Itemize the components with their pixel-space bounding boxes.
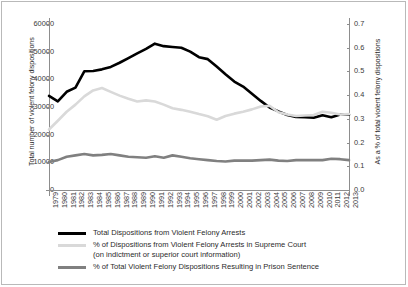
x-axis-tick-label: 1994 bbox=[184, 192, 191, 208]
x-axis-tick-label: 2010 bbox=[326, 192, 333, 208]
x-axis-tick-label: 1986 bbox=[114, 192, 121, 208]
y-right-tick-label: 0.3 bbox=[354, 115, 394, 122]
x-axis-tick-label: 2008 bbox=[308, 192, 315, 208]
legend-item: % of Total Violent Felony Dispositions R… bbox=[58, 262, 388, 273]
legend-label-sub: (on indictment or superior court informa… bbox=[93, 250, 306, 261]
x-axis-tick-label: 2003 bbox=[264, 192, 271, 208]
series-plot bbox=[49, 24, 349, 190]
legend-label: % of Total Violent Felony Dispositions R… bbox=[93, 262, 319, 273]
x-axis-tick-label: 2005 bbox=[281, 192, 288, 208]
legend-item: % of Dispositions from Violent Felony Ar… bbox=[58, 240, 388, 261]
chart-legend: Total Dispositions from Violent Felony A… bbox=[58, 228, 388, 273]
x-axis-tick-label: 1984 bbox=[96, 192, 103, 208]
x-axis-tick-label: 1982 bbox=[78, 192, 85, 208]
x-axis-tick-label: 1997 bbox=[211, 192, 218, 208]
x-axis-tick-label: 1996 bbox=[202, 192, 209, 208]
x-axis-tick-label: 2001 bbox=[246, 192, 253, 208]
y-right-tick-label: 0.4 bbox=[354, 91, 394, 98]
x-axis-tick-label: 1995 bbox=[193, 192, 200, 208]
series-line-3 bbox=[49, 154, 349, 162]
plot-area bbox=[49, 24, 349, 190]
x-axis-tick-label: 1987 bbox=[123, 192, 130, 208]
x-axis-tick-label: 1985 bbox=[105, 192, 112, 208]
x-axis-tick-label: 2007 bbox=[299, 192, 306, 208]
x-axis-tick-label: 1979 bbox=[52, 192, 59, 208]
y-right-tick-label: 0.7 bbox=[354, 20, 394, 27]
x-axis-tick-label: 1980 bbox=[61, 192, 68, 208]
x-axis-tick-label: 2006 bbox=[290, 192, 297, 208]
x-axis-tick-label: 1990 bbox=[149, 192, 156, 208]
y-right-tick-label: 0.5 bbox=[354, 67, 394, 74]
series-line-2 bbox=[49, 88, 349, 130]
y-right-tick-label: 0.2 bbox=[354, 139, 394, 146]
legend-label: Total Dispositions from Violent Felony A… bbox=[93, 228, 245, 239]
x-axis-tick-label: 1983 bbox=[87, 192, 94, 208]
legend-item: Total Dispositions from Violent Felony A… bbox=[58, 228, 388, 239]
chart-container: Total number of violent felony dispositi… bbox=[1, 1, 406, 285]
x-axis-tick-label: 2004 bbox=[273, 192, 280, 208]
x-axis-tick-label: 1998 bbox=[220, 192, 227, 208]
x-axis-tick-label: 2011 bbox=[334, 192, 341, 207]
x-axis-tick-label: 2009 bbox=[317, 192, 324, 208]
y-right-tick-label: 0.0 bbox=[354, 186, 394, 193]
x-axis-tick-label: 1989 bbox=[140, 192, 147, 208]
y-right-tick-label: 0.6 bbox=[354, 44, 394, 51]
legend-swatch-icon bbox=[58, 232, 86, 235]
axis-line-right bbox=[349, 18, 350, 196]
x-axis-labels: 1979198019811982198319841985198619871988… bbox=[49, 192, 349, 222]
x-axis-tick-label: 1981 bbox=[70, 192, 77, 208]
x-axis-tick-label: 2000 bbox=[237, 192, 244, 208]
x-axis-tick-label: 1999 bbox=[228, 192, 235, 208]
x-axis-tick-label: 1993 bbox=[176, 192, 183, 208]
x-axis-tick-label: 1992 bbox=[167, 192, 174, 208]
series-line-1 bbox=[49, 44, 349, 118]
x-axis-tick-label: 1991 bbox=[158, 192, 165, 208]
legend-label: % of Dispositions from Violent Felony Ar… bbox=[93, 240, 306, 251]
x-axis-tick-label: 1988 bbox=[131, 192, 138, 208]
x-axis-tick-label: 2002 bbox=[255, 192, 262, 208]
x-axis-tick-label: 2013 bbox=[352, 192, 359, 208]
axis-line-bottom bbox=[49, 190, 350, 191]
legend-swatch-icon bbox=[58, 244, 86, 247]
legend-swatch-icon bbox=[58, 266, 86, 269]
y-right-tick-label: 0.1 bbox=[354, 162, 394, 169]
x-axis-tick-label: 2012 bbox=[343, 192, 350, 208]
